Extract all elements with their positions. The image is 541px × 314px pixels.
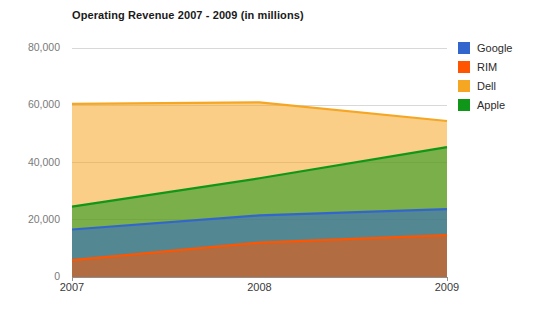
series-areas: [72, 102, 447, 277]
legend-item-apple[interactable]: Apple: [458, 98, 512, 111]
y-axis-tick-label: 80,000: [2, 41, 60, 53]
legend-swatch-rim: [458, 61, 470, 73]
legend-label: RIM: [477, 61, 497, 73]
x-axis-tick-label: 2008: [230, 281, 290, 293]
legend-swatch-google: [458, 42, 470, 54]
legend-item-rim[interactable]: RIM: [458, 60, 512, 73]
y-axis-tick-label: 40,000: [2, 156, 60, 168]
legend-swatch-dell: [458, 80, 470, 92]
legend-item-google[interactable]: Google: [458, 41, 512, 54]
chart-legend: GoogleRIMDellApple: [458, 41, 512, 111]
area-chart: Operating Revenue 2007 - 2009 (in millio…: [0, 0, 541, 314]
legend-item-dell[interactable]: Dell: [458, 79, 512, 92]
y-axis-tick-label: 20,000: [2, 213, 60, 225]
legend-swatch-apple: [458, 99, 470, 111]
legend-label: Apple: [477, 99, 505, 111]
x-axis-tick-label: 2007: [42, 281, 102, 293]
legend-label: Dell: [477, 80, 496, 92]
y-axis-tick-label: 60,000: [2, 98, 60, 110]
legend-label: Google: [477, 42, 512, 54]
x-axis-tick-label: 2009: [417, 281, 477, 293]
